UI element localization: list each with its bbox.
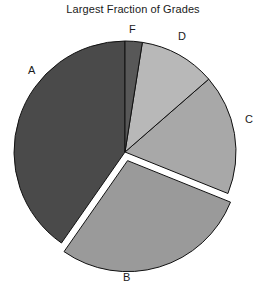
pie-slice-label-a: A <box>28 65 35 76</box>
pie-chart-figure: Largest Fraction of Grades AFDCB <box>0 0 266 291</box>
pie-slice-label-c: C <box>245 114 253 125</box>
pie-chart-svg <box>0 0 266 291</box>
pie-slice-label-f: F <box>129 24 136 35</box>
pie-slices-group <box>14 41 236 272</box>
pie-slice-label-d: D <box>178 31 186 42</box>
pie-slice-label-b: B <box>123 272 130 283</box>
